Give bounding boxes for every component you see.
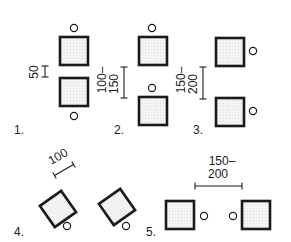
spacing-diagram: 50 1. 100– 150 2. 150– 200 3. (0, 0, 291, 242)
arrangement-1: 50 1. (14, 24, 88, 137)
desk-icon (216, 98, 244, 126)
chair-icon (122, 222, 129, 229)
chair-icon (249, 47, 256, 54)
arrangement-number: 1. (14, 123, 24, 137)
arrangement-5: 150– 200 5. (146, 154, 270, 239)
chair-icon (70, 24, 77, 31)
desk-icon (60, 37, 88, 65)
dimension-bar (200, 67, 207, 99)
dimension-bar (42, 66, 49, 77)
chair-icon (200, 212, 207, 219)
arrangement-3: 150– 200 3. (174, 38, 257, 137)
arrangement-number: 3. (193, 123, 203, 137)
dimension-label: 100 (46, 145, 71, 167)
desk-icon (139, 37, 167, 65)
desk-icon (99, 189, 135, 225)
desk-icon (40, 191, 76, 227)
chair-icon (70, 112, 77, 119)
arrangement-2: 100– 150 2. (95, 24, 167, 137)
desk-icon (139, 97, 167, 125)
arrangement-4: 100 4. (14, 145, 135, 239)
dimension-bar (195, 183, 242, 190)
desk-icon (216, 38, 244, 66)
dimension-label-line2: 150 (107, 74, 121, 94)
desk-icon (60, 78, 88, 106)
arrangement-number: 4. (14, 225, 24, 239)
arrangement-number: 2. (114, 123, 124, 137)
dimension-label-line1: 150– (209, 154, 236, 168)
chair-icon (63, 222, 70, 229)
desk-icon (242, 201, 270, 229)
dimension-label-line2: 200 (208, 167, 228, 181)
dimension-label-line2: 200 (186, 74, 200, 94)
chair-icon (148, 84, 155, 91)
desk-icon (166, 201, 194, 229)
arrangement-number: 5. (146, 225, 156, 239)
dimension-bar (121, 67, 128, 98)
chair-icon (249, 107, 256, 114)
chair-icon (229, 212, 236, 219)
chair-icon (148, 24, 155, 31)
dimension-label: 50 (27, 65, 41, 79)
